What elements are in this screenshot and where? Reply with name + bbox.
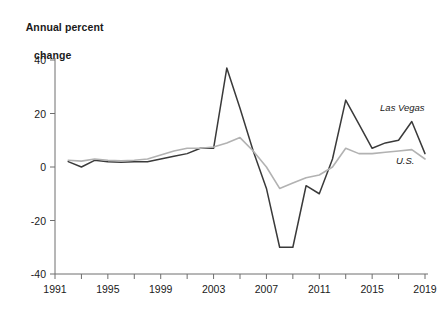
x-tick-label-1999: 1999 bbox=[149, 283, 173, 295]
y-tick-label--20: -20 bbox=[31, 215, 46, 227]
series-line-las-vegas bbox=[68, 68, 425, 247]
x-tick-label-2003: 2003 bbox=[202, 283, 226, 295]
y-tick-label-20: 20 bbox=[34, 108, 46, 120]
data-series-group bbox=[68, 68, 425, 247]
y-tick-label-40: 40 bbox=[34, 54, 46, 66]
y-tick-label--40: -40 bbox=[31, 268, 46, 280]
x-tick-label-2015: 2015 bbox=[360, 283, 384, 295]
y-axis-ticks: 40200-20-40 bbox=[31, 54, 55, 280]
series-label-las-vegas: Las Vegas bbox=[380, 102, 425, 113]
x-axis-ticks: 19911995199920032007201120152019 bbox=[43, 274, 437, 295]
x-tick-label-2007: 2007 bbox=[255, 283, 279, 295]
x-tick-label-2011: 2011 bbox=[308, 283, 331, 295]
y-tick-label-0: 0 bbox=[40, 161, 46, 173]
x-tick-label-2019: 2019 bbox=[413, 283, 437, 295]
line-chart-plot: 40200-20-40 1991199519992003200720112015… bbox=[0, 0, 442, 323]
x-tick-label-1991: 1991 bbox=[43, 283, 67, 295]
x-tick-label-1995: 1995 bbox=[96, 283, 120, 295]
series-line-u-s bbox=[68, 138, 425, 189]
axes bbox=[55, 58, 428, 274]
chart-figure: Annual percent change 40200-20-40 199119… bbox=[0, 0, 442, 323]
series-label-u-s: U.S. bbox=[396, 155, 414, 166]
